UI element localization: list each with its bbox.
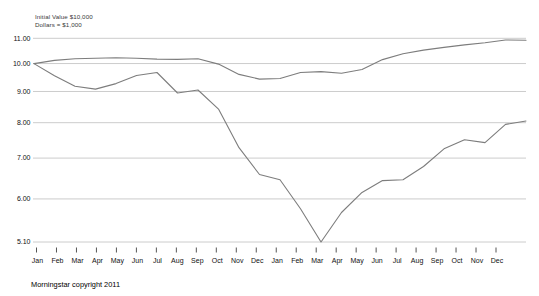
x-axis-label: Sep — [431, 257, 444, 265]
copyright-label: Morningstar copyright 2011 — [31, 280, 120, 289]
x-axis-label: May — [351, 257, 365, 265]
x-axis-label: Apr — [92, 257, 104, 265]
x-axis-label: May — [111, 257, 125, 265]
x-axis-label: Feb — [291, 257, 303, 264]
x-axis-label: Dec — [491, 257, 504, 264]
chart-plot-area: 11.0010.009.008.007.006.005.10JanFebMarA… — [0, 0, 539, 296]
x-axis-label: Oct — [452, 257, 463, 264]
x-axis-label: Jul — [153, 257, 162, 264]
series-upper-fund-line — [34, 40, 526, 79]
x-axis-label: Feb — [51, 257, 63, 264]
y-axis-label: 7.00 — [17, 154, 31, 161]
x-axis-label: Jan — [272, 257, 283, 264]
x-axis-label: Aug — [171, 257, 184, 265]
x-axis-label: Mar — [71, 257, 84, 264]
y-axis-label: 6.00 — [17, 195, 31, 202]
series-lower-fund-line — [34, 64, 526, 242]
x-axis-label: Jul — [393, 257, 402, 264]
y-axis-label: 5.10 — [17, 238, 31, 245]
chart-header: Initial Value $10,000 Dollars = $1,000 — [35, 13, 93, 28]
x-axis-label: Jun — [132, 257, 143, 264]
dollars-scale-label: Dollars = $1,000 — [35, 21, 93, 29]
x-axis-label: Aug — [411, 257, 424, 265]
morningstar-growth-chart: 11.0010.009.008.007.006.005.10JanFebMarA… — [0, 0, 539, 296]
y-axis-label: 8.00 — [17, 119, 31, 126]
x-axis-label: Jun — [371, 257, 382, 264]
x-axis-label: Mar — [311, 257, 324, 264]
x-axis-label: Dec — [251, 257, 264, 264]
y-axis-label: 11.00 — [14, 35, 31, 42]
x-axis-label: Jan — [32, 257, 43, 264]
x-axis-label: Sep — [191, 257, 204, 265]
y-axis-label: 10.00 — [13, 60, 31, 67]
initial-value-label: Initial Value $10,000 — [35, 13, 93, 21]
y-axis-label: 9.00 — [17, 88, 31, 95]
x-axis-label: Nov — [471, 257, 484, 264]
x-axis-label: Nov — [231, 257, 244, 264]
x-axis-label: Apr — [332, 257, 344, 265]
x-axis-label: Oct — [212, 257, 223, 264]
